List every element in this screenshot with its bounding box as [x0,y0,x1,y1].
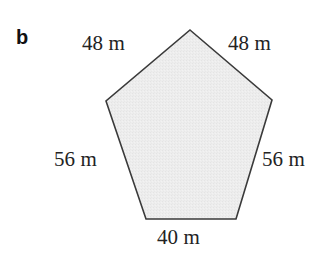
side-label-top-right: 48 m [228,31,271,56]
side-label-top-left: 48 m [82,31,125,56]
pentagon-outline [106,30,272,219]
side-label-bottom: 40 m [157,225,200,250]
side-label-left: 56 m [54,147,97,172]
figure-container: b 48 m 48 m 56 m 56 m 40 m [0,0,335,264]
side-label-right: 56 m [262,147,305,172]
